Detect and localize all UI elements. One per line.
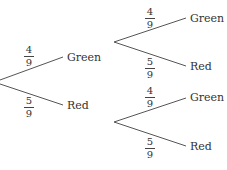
numerator: 4 <box>24 45 34 57</box>
denominator: 9 <box>145 69 155 80</box>
numerator: 5 <box>145 137 155 149</box>
outcome-label-2b-green: Green <box>190 92 224 103</box>
outcome-label-2b-red: Red <box>190 141 212 152</box>
outcome-label-2a-green: Green <box>190 13 224 24</box>
denominator: 9 <box>145 19 155 30</box>
denominator: 9 <box>24 108 34 119</box>
prob-fraction-1-red: 5 9 <box>24 96 34 119</box>
outcome-label-1-green: Green <box>67 52 101 63</box>
numerator: 5 <box>145 57 155 69</box>
prob-fraction-2b-red: 5 9 <box>145 137 155 160</box>
prob-fraction-2b-green: 4 9 <box>145 86 155 109</box>
prob-fraction-1-green: 4 9 <box>24 45 34 68</box>
denominator: 9 <box>145 149 155 160</box>
numerator: 5 <box>24 96 34 108</box>
numerator: 4 <box>145 86 155 98</box>
numerator: 4 <box>145 7 155 19</box>
denominator: 9 <box>24 57 34 68</box>
outcome-label-1-red: Red <box>67 100 89 111</box>
prob-fraction-2a-green: 4 9 <box>145 7 155 30</box>
prob-fraction-2a-red: 5 9 <box>145 57 155 80</box>
denominator: 9 <box>145 98 155 109</box>
outcome-label-2a-red: Red <box>190 61 212 72</box>
